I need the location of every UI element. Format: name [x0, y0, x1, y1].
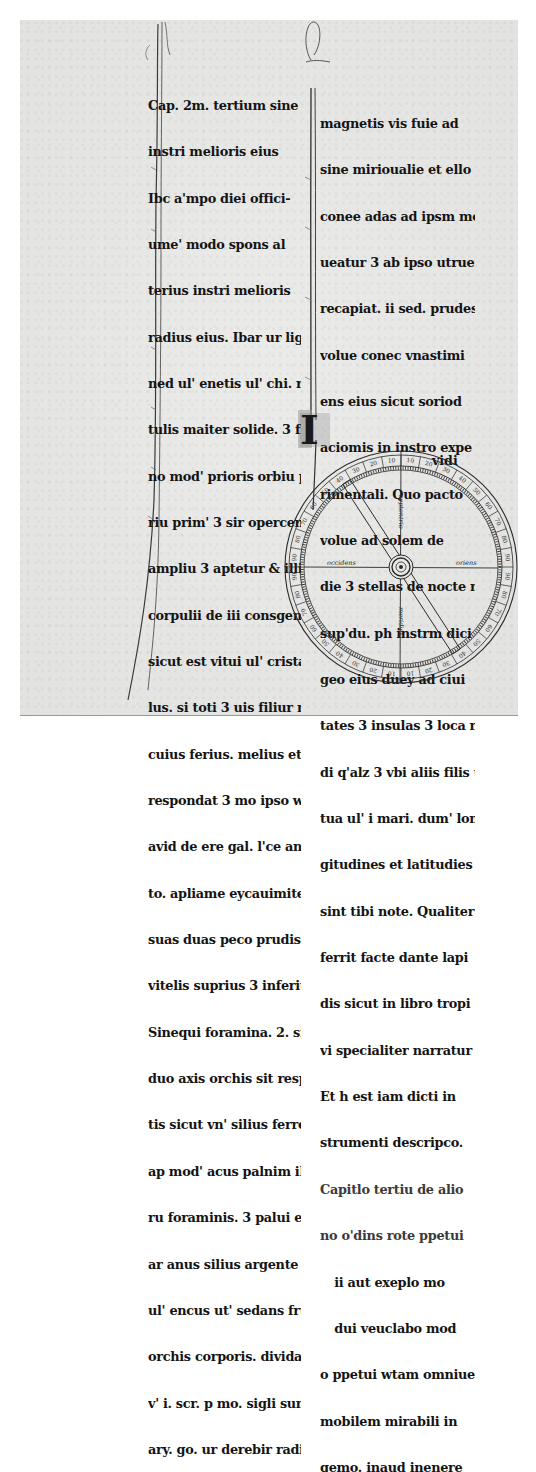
- label-south: meridies: [397, 607, 405, 636]
- degree-label: 50: [472, 638, 482, 648]
- degree-label: 50: [472, 486, 482, 496]
- text-line: vitelis suprius 3 inferius.: [148, 978, 301, 993]
- text-line: suas duas peco prudis.: [148, 932, 301, 947]
- text-line: ferrit facte dante lapi: [320, 950, 475, 965]
- text-line: cuius ferius. melius et: [148, 747, 301, 762]
- label-west: occidens: [327, 559, 356, 567]
- degree-label: 60: [308, 623, 318, 633]
- text-line: sint tibi note. Qualiter: [320, 904, 475, 919]
- degree-label: 60: [308, 500, 318, 510]
- degree-label: 20: [368, 666, 377, 675]
- degree-label: 80: [500, 590, 509, 599]
- degree-label: 40: [334, 650, 344, 660]
- text-line: duo axis orchis sit respond: [148, 1071, 301, 1086]
- degree-label: 20: [424, 666, 433, 675]
- degree-label: 90: [504, 554, 512, 562]
- text-line: vi specialiter narratur: [320, 1043, 475, 1058]
- label-east: oriens: [456, 559, 477, 567]
- degree-label: 90: [290, 553, 298, 561]
- degree-label: 40: [334, 474, 344, 484]
- rubric-line: no o'dins rote ppetui: [320, 1228, 475, 1243]
- degree-label: 20: [369, 459, 378, 468]
- text-line: gitudines et latitudies: [320, 857, 475, 872]
- degree-label: 50: [320, 486, 330, 496]
- degree-label: 90: [290, 572, 298, 580]
- text-line: to. apliame eycauimiter: [148, 886, 301, 901]
- rubric-line: Capitlo tertiu de alio: [320, 1182, 475, 1197]
- text-line: ii aut exeplo mo: [320, 1275, 475, 1290]
- text-line: Sinequi foramina. 2. sine: [148, 1025, 301, 1040]
- degree-label: 80: [293, 534, 302, 543]
- text-line: ap mod' acus palnim illo: [148, 1164, 301, 1179]
- degree-label: 80: [293, 590, 302, 599]
- degree-label: 40: [457, 474, 467, 484]
- degree-label: 10: [388, 456, 396, 464]
- label-north: septentrio: [397, 495, 405, 529]
- text-line: dui veuclabo mod: [320, 1321, 475, 1336]
- text-line: tua ul' i mari. dum' lon: [320, 811, 475, 826]
- text-line: strumenti descripco.: [320, 1135, 475, 1150]
- text-line: v' i. scr. p mo. sigli sun: [148, 1396, 301, 1411]
- text-line: orchis corporis. dividat: [148, 1349, 301, 1364]
- text-line: mobilem mirabili in: [320, 1414, 475, 1429]
- degree-label: 90: [504, 572, 512, 580]
- text-line: o ppetui wtam omniue: [320, 1367, 475, 1382]
- text-line: ul' encus ut' sedans fru: [148, 1303, 301, 1318]
- text-line: ar anus silius argente: [148, 1257, 301, 1272]
- degree-label: 40: [457, 650, 467, 660]
- degree-label: 80: [500, 535, 509, 544]
- text-line: dis sicut in libro tropi: [320, 996, 475, 1011]
- text-line: tis sicut vn' silius ferre': [148, 1117, 301, 1132]
- degree-label: 10: [406, 456, 414, 464]
- text-line: gemo. inaud inenere: [320, 1460, 475, 1472]
- degree-label: 20: [424, 459, 433, 468]
- text-line: Et h est iam dicti in: [320, 1089, 475, 1104]
- degree-label: 50: [320, 638, 330, 648]
- degree-label: 60: [484, 623, 494, 633]
- degree-label: 60: [484, 500, 494, 510]
- text-line: avid de ere gal. l'ce angle: [148, 839, 301, 854]
- text-line: di q'alz 3 vbi aliis filis ut: [320, 765, 475, 780]
- text-line: ru foraminis. 3 palui est: [148, 1210, 301, 1225]
- degree-label: 10: [387, 670, 395, 678]
- text-line: ary. go. ur derebir radio: [148, 1442, 301, 1457]
- degree-label: 10: [406, 670, 414, 678]
- text-line: respondat 3 mo ipso wil': [148, 793, 301, 808]
